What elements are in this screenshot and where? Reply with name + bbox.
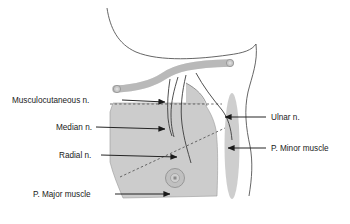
label-musculocutaneous: Musculocutaneous n. — [12, 96, 89, 105]
nipple-areola — [166, 169, 185, 188]
figure-canvas: Musculocutaneous n. Median n. Radial n. … — [0, 0, 350, 224]
pectoralis-minor-muscle — [225, 93, 240, 199]
label-pminor: P. Minor muscle — [271, 144, 329, 153]
leader-musculocutaneous — [122, 100, 165, 102]
clavicle-bone — [113, 59, 233, 92]
label-ulnar: Ulnar n. — [271, 113, 300, 122]
label-radial: Radial n. — [59, 151, 91, 160]
anatomy-diagram: Musculocutaneous n. Median n. Radial n. … — [0, 0, 350, 224]
label-median: Median n. — [56, 123, 92, 132]
label-pmajor: P. Major muscle — [33, 190, 91, 199]
